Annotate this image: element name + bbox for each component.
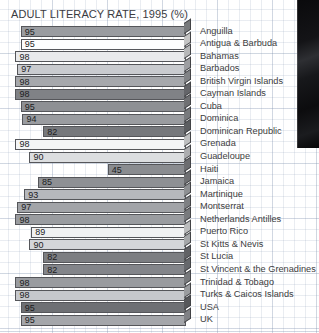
category-label: Martinique [200, 190, 243, 199]
bar: 98 [15, 277, 186, 288]
bar: 98 [15, 51, 186, 62]
bar-row: 89Puerto Rico [0, 227, 319, 238]
category-label: Montserrat [200, 203, 244, 212]
bar-row: 95UK [0, 315, 319, 326]
category-label: Dominican Republic [200, 127, 282, 136]
bar: 98 [15, 89, 186, 100]
bar: 98 [15, 139, 186, 150]
category-label: UK [200, 316, 213, 325]
bar: 97 [17, 64, 186, 75]
category-label: USA [200, 303, 219, 312]
bar-value-label: 85 [42, 178, 52, 187]
bar-value-label: 98 [19, 77, 29, 86]
bar-value-label: 82 [47, 127, 57, 136]
bar-value-label: 89 [35, 228, 45, 237]
chart-title: ADULT LITERACY RATE, 1995 (%) [11, 8, 188, 20]
bar-row: 82St Lucia [0, 252, 319, 263]
bar: 95 [21, 302, 186, 313]
bar-value-label: 90 [33, 153, 43, 162]
bar-row: 97Barbados [0, 64, 319, 75]
category-label: Haiti [200, 165, 218, 174]
bar-row: 95Antigua & Barbuda [0, 39, 319, 50]
bar-row: 98Trinidad & Tobago [0, 277, 319, 288]
bar: 90 [29, 239, 186, 250]
bar: 82 [43, 264, 186, 275]
bar-value-label: 97 [21, 65, 31, 74]
bar: 45 [108, 164, 186, 175]
bar-value-label: 97 [21, 203, 31, 212]
bar: 89 [31, 227, 186, 238]
bar-value-label: 98 [19, 90, 29, 99]
bar: 95 [21, 39, 186, 50]
category-label: Turks & Caicos Islands [200, 290, 294, 299]
category-label: Bahamas [200, 52, 239, 61]
bar-value-label: 82 [47, 265, 57, 274]
bar-row: 98Cayman Islands [0, 89, 319, 100]
bar-value-label: 95 [25, 27, 35, 36]
bar-row: 94Dominica [0, 114, 319, 125]
bar-row: 98British Virgin Islands [0, 76, 319, 87]
category-label: St Vincent & the Grenadines [200, 265, 316, 274]
category-label: Anguilla [200, 27, 233, 36]
bar-value-label: 98 [19, 278, 29, 287]
bar-value-label: 95 [25, 316, 35, 325]
bar-row: 93Martinique [0, 189, 319, 200]
category-label: Cuba [200, 102, 222, 111]
category-label: St Lucia [200, 253, 233, 262]
bar-row: 45Haiti [0, 164, 319, 175]
bar-row: 90Guadeloupe [0, 152, 319, 163]
bar-row: 95Anguilla [0, 26, 319, 37]
bar-row: 95USA [0, 302, 319, 313]
bar: 85 [38, 177, 186, 188]
bar: 98 [15, 76, 186, 87]
category-label: Netherlands Antilles [200, 215, 281, 224]
category-label: Trinidad & Tobago [200, 278, 274, 287]
bar-value-label: 93 [28, 190, 38, 199]
bar-value-label: 94 [26, 115, 36, 124]
bar-value-label: 90 [33, 240, 43, 249]
category-label: St Kitts & Nevis [200, 240, 263, 249]
bar-value-label: 98 [19, 291, 29, 300]
bar-row: 90St Kitts & Nevis [0, 239, 319, 250]
bar: 98 [15, 290, 186, 301]
bar-row: 98Turks & Caicos Islands [0, 290, 319, 301]
bar-row: 82Dominican Republic [0, 126, 319, 137]
bar-value-label: 98 [19, 140, 29, 149]
bar: 95 [21, 101, 186, 112]
bar: 82 [43, 126, 186, 137]
category-label: Jamaica [200, 177, 234, 186]
bar-row: 97Montserrat [0, 202, 319, 213]
category-label: Guadeloupe [200, 152, 250, 161]
bar: 90 [29, 152, 186, 163]
bar-value-label: 82 [47, 253, 57, 262]
bar-value-label: 95 [25, 102, 35, 111]
bar-chart-plot: 95Anguilla95Antigua & Barbuda98Bahamas97… [0, 26, 319, 330]
category-label: Antigua & Barbuda [200, 39, 277, 48]
bar: 97 [17, 202, 186, 213]
bar: 95 [21, 26, 186, 37]
bar: 94 [22, 114, 186, 125]
bar-value-label: 98 [19, 52, 29, 61]
bar-row: 98Grenada [0, 139, 319, 150]
bar: 93 [24, 189, 186, 200]
category-label: Cayman Islands [200, 90, 266, 99]
bar: 98 [15, 214, 186, 225]
bar-row: 98Bahamas [0, 51, 319, 62]
category-label: Puerto Rico [200, 228, 248, 237]
bar-value-label: 95 [25, 40, 35, 49]
category-label: British Virgin Islands [200, 77, 283, 86]
bar-row: 82St Vincent & the Grenadines [0, 264, 319, 275]
category-label: Barbados [200, 65, 239, 74]
category-label: Dominica [200, 115, 238, 124]
bar-row: 98Netherlands Antilles [0, 214, 319, 225]
bar: 82 [43, 252, 186, 263]
bar-value-label: 95 [25, 303, 35, 312]
bar: 95 [21, 315, 186, 326]
bar-value-label: 98 [19, 215, 29, 224]
bar-row: 95Cuba [0, 101, 319, 112]
bar-row: 85Jamaica [0, 177, 319, 188]
category-label: Grenada [200, 140, 236, 149]
bar-value-label: 45 [112, 165, 122, 174]
